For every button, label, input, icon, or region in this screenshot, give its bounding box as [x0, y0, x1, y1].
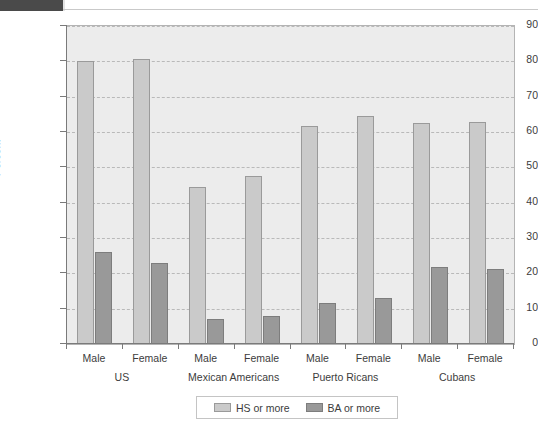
y-axis-label: 70 [492, 90, 538, 101]
x-axis-sex-label: Male [290, 352, 346, 364]
bar-hs-or-more [77, 61, 94, 344]
x-axis-sex-tick [457, 343, 458, 349]
chart-legend: HS or more BA or more [196, 396, 398, 419]
y-axis-line [66, 25, 67, 344]
y-axis-label: 90 [492, 19, 538, 30]
x-axis-group-tick [290, 343, 291, 349]
x-axis-end-tick [513, 343, 514, 349]
bar-hs-or-more [413, 123, 430, 344]
x-axis-group-label: US [66, 371, 178, 383]
y-axis-label: 10 [492, 302, 538, 313]
x-axis-sex-tick [122, 343, 123, 349]
bar-ba-or-more [375, 298, 392, 344]
y-axis-label: 60 [492, 125, 538, 136]
x-axis-sex-tick [234, 343, 235, 349]
y-axis-label: 20 [492, 266, 538, 277]
y-axis-label: 80 [492, 54, 538, 65]
y-axis-label: 0 [492, 337, 538, 348]
x-axis-group-tick [401, 343, 402, 349]
y-axis-tick [60, 272, 66, 273]
gridline [67, 26, 514, 27]
y-axis-tick [60, 25, 66, 26]
header-rule [63, 9, 538, 10]
x-axis-sex-label: Female [234, 352, 290, 364]
y-axis-tick [60, 237, 66, 238]
x-axis-sex-label: Male [66, 352, 122, 364]
bar-hs-or-more [245, 176, 262, 344]
bar-hs-or-more [189, 187, 206, 344]
y-axis-title: Percent [0, 140, 2, 176]
bar-ba-or-more [263, 316, 280, 344]
legend-swatch-ba-icon [306, 403, 323, 412]
x-axis-end-tick [66, 343, 67, 349]
legend-swatch-hs-icon [214, 403, 231, 412]
plot-area [66, 25, 515, 345]
bar-hs-or-more [133, 59, 150, 344]
x-axis-sex-tick [345, 343, 346, 349]
legend-label-ba: BA or more [328, 402, 381, 414]
legend-item-ba: BA or more [306, 402, 381, 414]
x-axis-sex-label: Female [345, 352, 401, 364]
chart-figure: Percent HS or more BA or more 9080706050… [0, 11, 538, 442]
y-axis-tick [60, 308, 66, 309]
header-dark-block [0, 0, 63, 11]
y-axis-tick [60, 202, 66, 203]
legend-label-hs: HS or more [236, 402, 290, 414]
x-axis-sex-label: Male [178, 352, 234, 364]
bar-ba-or-more [319, 303, 336, 344]
x-axis-group-label: Cubans [401, 371, 513, 383]
bar-hs-or-more [301, 126, 318, 344]
y-axis-label: 30 [492, 231, 538, 242]
header-decoration [0, 0, 538, 11]
bar-ba-or-more [151, 263, 168, 344]
x-axis-sex-label: Female [122, 352, 178, 364]
bar-ba-or-more [207, 319, 224, 344]
bar-ba-or-more [431, 267, 448, 344]
bar-hs-or-more [469, 122, 486, 344]
x-axis-sex-label: Female [457, 352, 513, 364]
y-axis-tick [60, 166, 66, 167]
x-axis-group-tick [178, 343, 179, 349]
y-axis-label: 40 [492, 196, 538, 207]
bar-ba-or-more [95, 252, 112, 344]
legend-item-hs: HS or more [214, 402, 290, 414]
y-axis-tick [60, 131, 66, 132]
x-axis-group-label: Puerto Ricans [290, 371, 402, 383]
bar-hs-or-more [357, 116, 374, 344]
x-axis-sex-label: Male [401, 352, 457, 364]
y-axis-tick [60, 60, 66, 61]
y-axis-tick [60, 96, 66, 97]
x-axis-group-label: Mexican Americans [178, 371, 290, 383]
y-axis-label: 50 [492, 160, 538, 171]
